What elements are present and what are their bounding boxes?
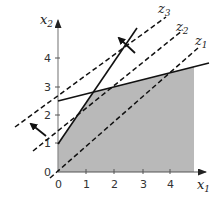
- feasible-region: [58, 67, 194, 172]
- y-tick-3: 3: [44, 81, 51, 94]
- y-tick-2: 2: [44, 109, 51, 122]
- x-axis-label: x1: [197, 177, 210, 194]
- z1-label: z1: [194, 33, 208, 50]
- x-tick-0: 0: [55, 178, 62, 191]
- z2-label: z2: [175, 19, 189, 36]
- z3-label: z3: [157, 1, 171, 18]
- x-tick-4: 4: [167, 178, 174, 191]
- lp-diagram: 0 1 2 3 4 0 1 2 3 4 x1 x2 z1 z2 z3: [0, 0, 217, 197]
- x-tick-1: 1: [83, 178, 90, 191]
- improvement-arrow-lower: [31, 124, 46, 136]
- x-tick-2: 2: [111, 178, 118, 191]
- x-tick-3: 3: [140, 178, 147, 191]
- y-axis-label: x2: [40, 12, 53, 29]
- y-tick-4: 4: [44, 52, 51, 65]
